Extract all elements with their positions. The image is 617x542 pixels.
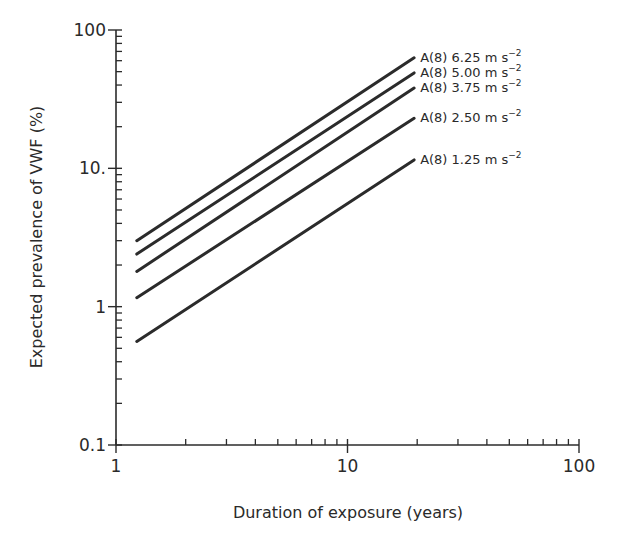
x-tick-label: 10 (337, 456, 359, 476)
series-line (137, 88, 414, 271)
y-tick-label: 1 (95, 297, 106, 317)
axes: 0.1110.100110100 (74, 20, 596, 476)
x-tick-label: 100 (563, 456, 595, 476)
legend-group: A(8) 6.25 m s−2A(8) 5.00 m s−2A(8) 3.75 … (420, 48, 521, 167)
series-line (137, 118, 414, 297)
y-tick-label: 0.1 (79, 435, 106, 455)
series-label: A(8) 2.50 m s−2 (420, 108, 521, 125)
series-label: A(8) 5.00 m s−2 (420, 63, 521, 80)
series-label: A(8) 3.75 m s−2 (420, 78, 521, 95)
y-tick-label: 100 (74, 20, 106, 40)
x-tick-label: 1 (111, 456, 122, 476)
y-tick-label: 10. (79, 158, 106, 178)
chart-svg: 0.1110.100110100 A(8) 6.25 m s−2A(8) 5.0… (0, 0, 617, 542)
series-line (137, 160, 414, 342)
series-label: A(8) 1.25 m s−2 (420, 150, 521, 167)
series-line (137, 73, 414, 254)
series-line (137, 58, 414, 241)
x-axis-title: Duration of exposure (years) (233, 503, 463, 522)
series-label: A(8) 6.25 m s−2 (420, 48, 521, 65)
series-group (137, 58, 414, 342)
y-axis-title: Expected prevalence of VWF (%) (27, 106, 46, 369)
